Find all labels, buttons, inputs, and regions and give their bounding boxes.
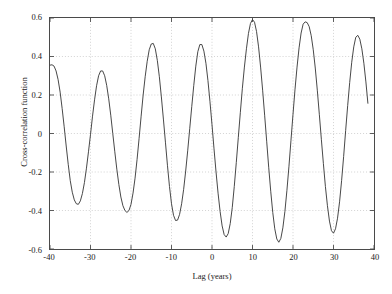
y-tick-label: -0.2 [29, 168, 42, 177]
x-axis-tick-labels: -40-30-20-10010203040 [49, 253, 375, 267]
x-axis-title: Lag (years) [49, 271, 375, 281]
y-tick-label: -0.6 [29, 246, 42, 255]
y-axis-title: Cross-correlation function [19, 32, 29, 212]
x-tick-label: 30 [330, 253, 339, 262]
y-tick-label: 0.6 [31, 13, 42, 22]
y-tick-label: -0.4 [29, 207, 42, 216]
y-tick-label: 0.4 [31, 52, 42, 61]
y-tick-label: 0.2 [31, 90, 42, 99]
x-tick-label: -30 [84, 253, 95, 262]
chart-page: -0.6-0.4-0.200.20.40.6 -40-30-20-1001020… [0, 0, 392, 294]
x-tick-label: 20 [289, 253, 298, 262]
x-tick-label: -10 [166, 253, 177, 262]
x-tick-label: 10 [249, 253, 258, 262]
cross-correlation-curve [50, 18, 374, 249]
x-tick-label: -40 [43, 253, 54, 262]
x-tick-label: 0 [210, 253, 214, 262]
x-tick-label: -20 [125, 253, 136, 262]
plot-area [49, 17, 375, 250]
y-tick-label: 0 [38, 129, 42, 138]
x-tick-label: 40 [371, 253, 380, 262]
